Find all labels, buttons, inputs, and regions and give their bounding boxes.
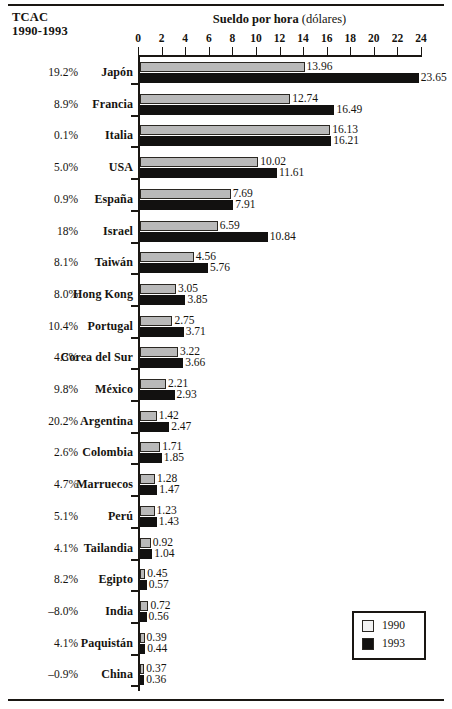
bar-value-1993: 3.71 — [186, 326, 206, 337]
bar-row: 8.0%Hong Kong3.053.85 — [0, 279, 452, 311]
row-category-label: Japón — [0, 65, 133, 80]
row-tickmark — [131, 527, 138, 529]
row-tickmark — [131, 590, 138, 592]
x-tick-label-8: 8 — [220, 32, 244, 44]
bar-1993 — [140, 73, 419, 83]
bar-1990 — [140, 189, 231, 199]
row-category-label: Paquistán — [0, 636, 133, 651]
chart-title: Sueldo por hora (dólares) — [138, 12, 421, 27]
bar-row: –0.9%China0.370.36 — [0, 659, 452, 691]
bar-value-1990: 13.96 — [307, 61, 333, 72]
bar-1990 — [140, 252, 194, 262]
bar-1990 — [140, 664, 144, 674]
row-tickmark — [131, 83, 138, 85]
bar-value-1993: 1.47 — [159, 484, 179, 495]
row-tickmark — [131, 622, 138, 624]
x-tick-label-14: 14 — [291, 32, 315, 44]
row-category-label: Tailandia — [0, 541, 133, 556]
bar-value-1993: 0.57 — [149, 579, 169, 590]
row-tickmark — [131, 400, 138, 402]
bar-1990 — [140, 284, 176, 294]
bar-1993 — [140, 485, 157, 495]
bar-1993 — [140, 136, 331, 146]
chart-page: TCAC 1990-1993 Sueldo por hora (dólares)… — [0, 0, 452, 709]
legend-label-1993: 1993 — [382, 637, 405, 649]
row-category-label: China — [0, 667, 133, 682]
x-tick-label-22: 22 — [385, 32, 409, 44]
bar-1990 — [140, 125, 330, 135]
row-category-label: Argentina — [0, 414, 133, 429]
bar-value-1993: 1.04 — [154, 548, 174, 559]
row-category-label: Taiwán — [0, 255, 133, 270]
legend-label-1990: 1990 — [382, 619, 405, 631]
chart-title-sub: (dólares) — [302, 12, 346, 26]
bar-row: 8.2%Egipto0.450.57 — [0, 564, 452, 596]
x-tick-4 — [185, 47, 186, 55]
bar-value-1993: 2.93 — [177, 389, 197, 400]
tcac-header-line2: 1990-1993 — [12, 24, 68, 38]
bar-value-1993: 0.56 — [149, 611, 169, 622]
bar-1993 — [140, 168, 277, 178]
bar-row: 8.9%Francia12.7416.49 — [0, 89, 452, 121]
row-category-label: Francia — [0, 97, 133, 112]
row-tickmark — [131, 432, 138, 434]
bar-value-1993: 7.91 — [235, 199, 255, 210]
x-tick-22 — [397, 47, 398, 55]
bar-1993 — [140, 263, 208, 273]
bar-1993 — [140, 327, 184, 337]
bar-1993 — [140, 612, 147, 622]
bar-row: 2.6%Colombia1.711.85 — [0, 437, 452, 469]
bar-value-1993: 3.85 — [187, 294, 207, 305]
top-rule — [8, 4, 444, 6]
bar-value-1990: 0.39 — [147, 632, 167, 643]
bar-1990 — [140, 221, 218, 231]
x-tick-18 — [350, 47, 351, 55]
x-tick-label-0: 0 — [126, 32, 150, 44]
bar-1993 — [140, 517, 157, 527]
row-tickmark — [131, 337, 138, 339]
bar-1993 — [140, 200, 233, 210]
bar-value-1993: 0.44 — [147, 643, 167, 654]
row-category-label: Colombia — [0, 445, 133, 460]
row-tickmark — [131, 495, 138, 497]
x-tick-0 — [138, 47, 139, 55]
row-tickmark — [131, 210, 138, 212]
x-tick-label-24: 24 — [409, 32, 433, 44]
row-category-label: España — [0, 192, 133, 207]
bar-1990 — [140, 316, 172, 326]
bar-1993 — [140, 644, 145, 654]
row-category-label: Marruecos — [0, 477, 133, 492]
x-tick-label-18: 18 — [338, 32, 362, 44]
row-tickmark — [131, 305, 138, 307]
bar-value-1993: 16.49 — [336, 104, 362, 115]
bar-1993 — [140, 232, 268, 242]
bar-row: 20.2%Argentina1.422.47 — [0, 406, 452, 438]
x-tick-label-2: 2 — [150, 32, 174, 44]
row-tickmark — [131, 273, 138, 275]
bar-row: 10.4%Portugal2.753.71 — [0, 311, 452, 343]
row-category-label: Perú — [0, 509, 133, 524]
bar-1993 — [140, 549, 152, 559]
bar-value-1993: 1.43 — [159, 516, 179, 527]
bar-1990 — [140, 347, 178, 357]
bar-value-1993: 1.85 — [164, 452, 184, 463]
legend-swatch-1990 — [362, 620, 374, 632]
row-tickmark — [131, 146, 138, 148]
bar-row: 0.9%España7.697.91 — [0, 184, 452, 216]
row-tickmark — [131, 242, 138, 244]
bar-row: 4.3%Corea del Sur3.223.66 — [0, 342, 452, 374]
row-category-label: Portugal — [0, 319, 133, 334]
x-tick-24 — [421, 47, 422, 55]
bar-value-1993: 2.47 — [171, 421, 191, 432]
bar-1990 — [140, 62, 305, 72]
row-tickmark — [131, 559, 138, 561]
row-tickmark — [131, 115, 138, 117]
bar-value-1993: 16.21 — [333, 135, 359, 146]
bar-value-1993: 10.84 — [270, 231, 296, 242]
bar-value-1993: 0.36 — [146, 674, 166, 685]
bar-1990 — [140, 633, 145, 643]
bar-1990 — [140, 601, 148, 611]
bar-1993 — [140, 580, 147, 590]
x-tick-6 — [209, 47, 210, 55]
x-tick-20 — [374, 47, 375, 55]
